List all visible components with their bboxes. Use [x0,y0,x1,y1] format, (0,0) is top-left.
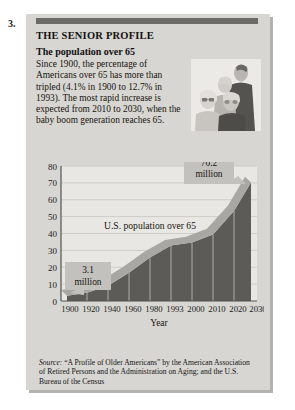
svg-text:2020: 2020 [229,304,247,314]
svg-text:2030: 2030 [249,304,264,314]
y-axis-tick-labels: 80 70 60 50 40 30 20 10 0 [48,162,58,307]
svg-text:1960: 1960 [124,304,142,314]
panel-kicker: THE SENIOR PROFILE [36,30,154,41]
elderly-family-photo [191,59,261,131]
source-text: “A Profile of Older Americans” by the Am… [39,358,250,386]
svg-text:30: 30 [48,246,58,256]
svg-text:1900: 1900 [61,304,79,314]
svg-text:40: 40 [48,229,58,239]
chart-inline-title: U.S. population over 65 [104,220,196,231]
end-callout-unit: million [195,169,222,179]
svg-text:60: 60 [48,195,58,205]
svg-text:50: 50 [48,212,58,222]
svg-text:1920: 1920 [82,304,100,314]
svg-text:1980: 1980 [145,304,163,314]
svg-text:20: 20 [48,263,58,273]
svg-text:2000: 2000 [187,304,205,314]
panel-subhead: The population over 65 [36,46,135,57]
svg-text:10: 10 [48,280,58,290]
x-axis-title: Year [150,318,168,328]
panel-body-text: Since 1900, the percentage of Americans … [36,59,186,127]
svg-text:80: 80 [48,162,58,172]
svg-text:2010: 2010 [208,304,226,314]
panel-top-rule [36,18,258,24]
svg-text:1993: 1993 [166,304,183,314]
exercise-number: 3. [8,18,16,29]
end-callout-value: 70.2 [201,162,218,168]
senior-profile-panel: THE SENIOR PROFILE The population over 6… [26,14,270,390]
start-callout-unit: million [74,277,101,287]
x-axis-tick-labels: 1900 1920 1940 1960 1980 1993 2000 2010 … [61,304,264,314]
population-area-chart: 80 70 60 50 40 30 20 10 0 [32,162,264,352]
source-note: Source: “A Profile of Older Americans” b… [39,358,253,386]
svg-text:70: 70 [48,178,58,188]
start-callout-value: 3.1 [82,265,94,275]
source-label: Source: [39,358,62,367]
svg-text:0: 0 [53,297,58,307]
svg-text:1940: 1940 [103,304,121,314]
photo-illustration [191,59,261,131]
